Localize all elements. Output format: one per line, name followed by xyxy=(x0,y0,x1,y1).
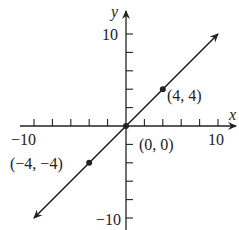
point-marker xyxy=(86,160,92,166)
point-marker xyxy=(123,123,129,129)
point-label-pos: (4, 4) xyxy=(167,87,202,105)
point-label-origin: (0, 0) xyxy=(139,136,174,154)
graph-figure: x y −10 10 10 −10 (−4, −4) (0, 0) (4, 4) xyxy=(0,0,239,230)
coordinate-plane: x y −10 10 10 −10 (−4, −4) (0, 0) (4, 4) xyxy=(0,0,239,230)
point-label-neg: (−4, −4) xyxy=(10,155,63,173)
point-marker xyxy=(160,86,166,92)
y-min-tick-label: −10 xyxy=(96,211,121,228)
x-axis-label: x xyxy=(228,106,236,123)
y-max-tick-label: 10 xyxy=(102,26,118,43)
x-min-tick-label: −10 xyxy=(11,131,36,148)
x-max-tick-label: 10 xyxy=(208,131,224,148)
y-axis-label: y xyxy=(109,3,119,21)
